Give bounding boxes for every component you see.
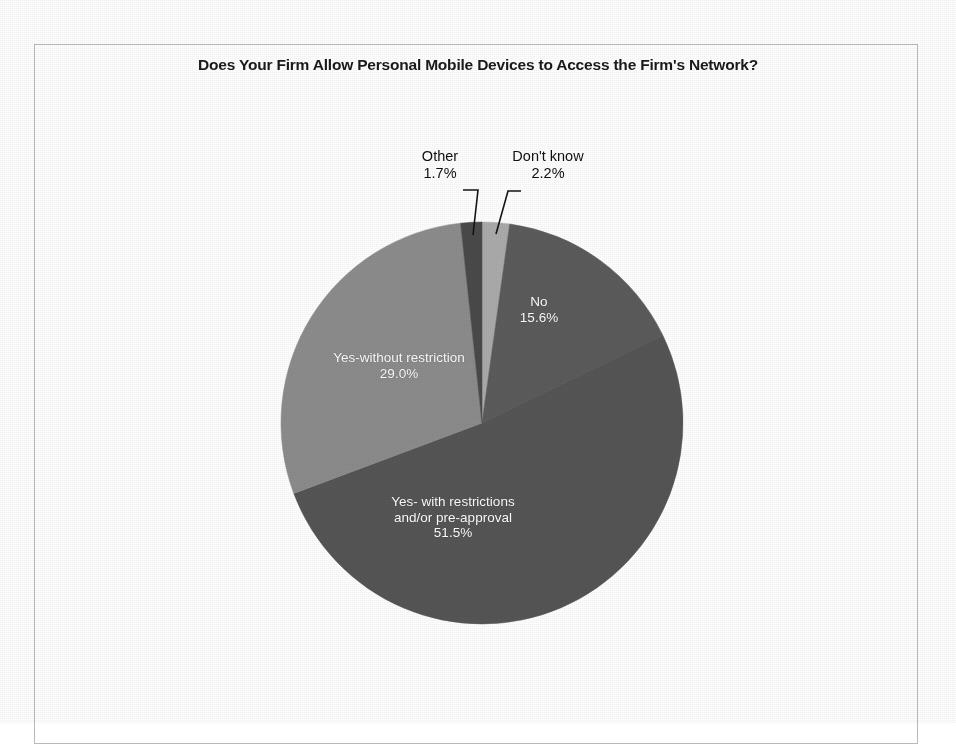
- pie-label-no: No 15.6%: [497, 294, 581, 325]
- pie-label-other-value: 1.7%: [398, 165, 482, 182]
- pie-label-other: Other 1.7%: [398, 148, 482, 182]
- pie-label-dont-know-name: Don't know: [496, 148, 600, 165]
- pie-label-yes-without-restriction-value: 29.0%: [299, 366, 499, 382]
- pie-label-yes-with-restrictions-value: 51.5%: [347, 525, 559, 541]
- pie-label-dont-know: Don't know 2.2%: [496, 148, 600, 182]
- pie-label-yes-with-restrictions-line1: Yes- with restrictions: [347, 494, 559, 510]
- pie-label-yes-with-restrictions: Yes- with restrictions and/or pre-approv…: [347, 494, 559, 541]
- pie-label-no-value: 15.6%: [497, 310, 581, 326]
- pie-label-no-name: No: [497, 294, 581, 310]
- pie-label-yes-without-restriction: Yes-without restriction 29.0%: [299, 350, 499, 381]
- pie-label-dont-know-value: 2.2%: [496, 165, 600, 182]
- pie-label-other-name: Other: [398, 148, 482, 165]
- pie-label-yes-without-restriction-name: Yes-without restriction: [299, 350, 499, 366]
- pie-label-yes-with-restrictions-line2: and/or pre-approval: [347, 510, 559, 526]
